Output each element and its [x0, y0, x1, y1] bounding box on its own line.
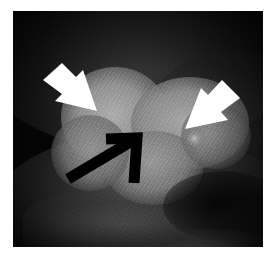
inferior-soft-tissue-band: [23, 189, 263, 247]
figure-root: [0, 0, 275, 263]
black-open-arrow-icon: [65, 132, 141, 190]
dark-cleft-lower-right: [163, 171, 263, 241]
scan-image: [13, 11, 263, 247]
white-arrow-upper-left-icon: [42, 61, 100, 117]
tissue-bottom-right: [133, 229, 263, 247]
white-arrow-upper-right-icon: [181, 77, 241, 135]
